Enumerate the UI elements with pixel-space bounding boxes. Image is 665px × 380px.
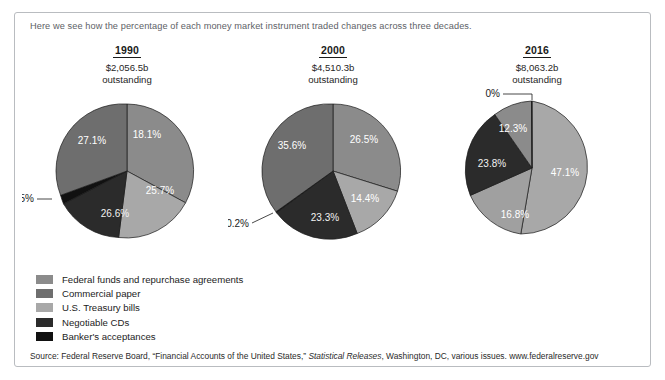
legend-label: Negotiable CDs: [62, 317, 129, 328]
source-italic-title: Statistical Releases: [308, 351, 381, 361]
legend-swatch-icon: [36, 275, 53, 284]
panel-2000: 2000 $4,510.3b outstanding 26.5% 14.4% 2…: [228, 44, 438, 261]
panel-amount: $2,056.5b: [22, 62, 232, 74]
pie-label-commercial-paper: 25.7%: [146, 185, 174, 196]
callout-line-bankers-acceptances: [503, 94, 532, 100]
pie-label-treasury-bills: 35.6%: [278, 140, 306, 151]
legend-item-federal-funds: Federal funds and repurchase agreements: [36, 272, 243, 286]
legend-item-bankers-acceptances: Banker's acceptances: [36, 330, 243, 344]
legend-swatch-icon: [36, 318, 53, 327]
legend-label: Banker's acceptances: [62, 331, 156, 342]
legend-swatch-icon: [36, 289, 53, 298]
panel-year-heading: 2016: [432, 44, 642, 56]
panel-year-label: 2016: [523, 44, 551, 58]
legend-item-treasury-bills: U.S. Treasury bills: [36, 301, 243, 315]
pie-label-federal-funds: 26.5%: [350, 134, 378, 145]
pie-chart-2000: 26.5% 14.4% 23.3% 35.6% 0.2%: [228, 86, 438, 261]
pie-label-commercial-paper: 14.4%: [351, 193, 379, 204]
panel-outstanding-label: outstanding: [432, 74, 642, 86]
pie-label-federal-funds: 18.1%: [133, 129, 161, 140]
panel-outstanding-label: outstanding: [228, 74, 438, 86]
figure-caption: Here we see how the percentage of each m…: [30, 20, 630, 32]
callout-line-bankers-acceptances: [252, 213, 273, 223]
pie-label-negotiable-cds: 23.8%: [478, 158, 506, 169]
legend-swatch-icon: [36, 332, 53, 341]
pie-label-commercial-paper: 16.8%: [501, 209, 529, 220]
legend-item-commercial-paper: Commercial paper: [36, 286, 243, 300]
pie-svg-2000: 26.5% 14.4% 23.3% 35.6% 0.2%: [228, 86, 438, 261]
source-suffix: , Washington, DC, various issues. www.fe…: [381, 351, 598, 361]
source-prefix: Source: Federal Reserve Board, “Financia…: [30, 351, 308, 361]
panel-amount: $4,510.3b: [228, 62, 438, 74]
legend-label: U.S. Treasury bills: [62, 302, 140, 313]
panel-year-label: 1990: [113, 44, 141, 58]
panel-2016: 2016 $8,063.2b outstanding 47.1% 16.8% 2…: [432, 44, 642, 261]
pie-label-treasury-bills: 12.3%: [499, 123, 527, 134]
pie-svg-2016: 47.1% 16.8% 23.8% 12.3% 0%: [432, 86, 642, 261]
legend-label: Federal funds and repurchase agreements: [62, 274, 243, 285]
money-market-pie-figure: Here we see how the percentage of each m…: [0, 0, 665, 380]
pie-chart-1990: 18.1% 25.7% 26.6% 27.1% 2.5%: [22, 86, 232, 261]
panel-amount: $8,063.2b: [432, 62, 642, 74]
panel-year-label: 2000: [319, 44, 347, 58]
panel-year-heading: 1990: [22, 44, 232, 56]
source-note: Source: Federal Reserve Board, “Financia…: [30, 351, 599, 361]
legend-swatch-icon: [36, 303, 53, 312]
legend-item-negotiable-cds: Negotiable CDs: [36, 315, 243, 329]
pie-label-bankers-acceptances: 0.2%: [228, 218, 249, 229]
pie-svg-1990: 18.1% 25.7% 26.6% 27.1% 2.5%: [22, 86, 232, 261]
pie-label-bankers-acceptances: 2.5%: [22, 193, 34, 204]
legend: Federal funds and repurchase agreements …: [36, 272, 243, 344]
pie-chart-2016: 47.1% 16.8% 23.8% 12.3% 0%: [432, 86, 642, 261]
pie-label-treasury-bills: 27.1%: [78, 135, 106, 146]
panel-1990: 1990 $2,056.5b outstanding 18.1% 25.7% 2…: [22, 44, 232, 261]
legend-label: Commercial paper: [62, 288, 140, 299]
panel-outstanding-label: outstanding: [22, 74, 232, 86]
panel-year-heading: 2000: [228, 44, 438, 56]
pie-label-negotiable-cds: 26.6%: [101, 208, 129, 219]
pie-label-federal-funds: 47.1%: [551, 167, 579, 178]
pie-label-bankers-acceptances: 0%: [486, 88, 501, 99]
pie-label-negotiable-cds: 23.3%: [311, 212, 339, 223]
